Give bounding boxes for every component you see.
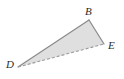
vertex-label-b: B — [85, 6, 92, 17]
triangle-fill — [18, 20, 104, 67]
triangle-diagram — [0, 0, 124, 79]
geometry-figure: B E D — [0, 0, 124, 79]
vertex-label-e: E — [108, 40, 115, 51]
vertex-label-d: D — [6, 59, 14, 70]
